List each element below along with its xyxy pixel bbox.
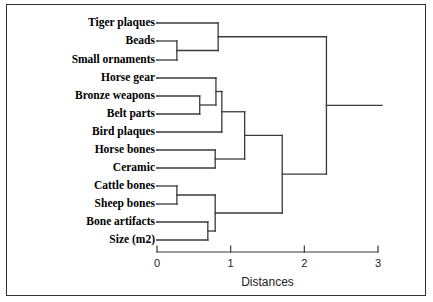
axis-tick-label: 0: [137, 258, 177, 269]
leaf-label: Sheep bones: [95, 198, 155, 210]
axis-line-group: [157, 246, 378, 252]
leaf-label: Horse gear: [101, 72, 155, 84]
axis-tick-label: 2: [284, 258, 324, 269]
leaf-label: Beads: [126, 35, 155, 47]
leaf-label: Bone artifacts: [86, 216, 155, 228]
leaf-label: Small ornaments: [72, 54, 155, 66]
leaf-label: Belt parts: [107, 108, 155, 120]
leaf-label: Size (m2): [109, 234, 155, 246]
dendrogram-figure: Tiger plaquesBeadsSmall ornamentsHorse g…: [0, 0, 433, 302]
leaf-label: Bird plaques: [92, 126, 155, 138]
leaf-label: Ceramic: [113, 162, 155, 174]
leaf-label: Cattle bones: [94, 180, 155, 192]
leaf-label: Bronze weapons: [75, 90, 155, 102]
dendrogram-link-group: [157, 23, 382, 240]
leaf-label: Horse bones: [95, 144, 155, 156]
axis-tick-label: 1: [211, 258, 251, 269]
axis-title: Distances: [137, 276, 398, 288]
dendrogram-plot: [0, 0, 433, 302]
leaf-label: Tiger plaques: [88, 17, 155, 29]
axis-tick-label: 3: [358, 258, 398, 269]
